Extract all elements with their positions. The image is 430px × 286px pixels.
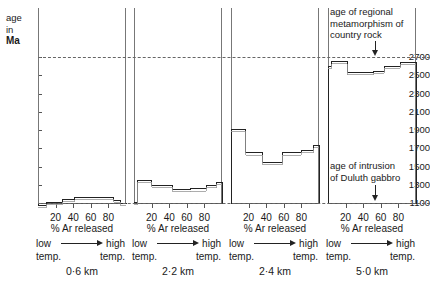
x-tick-label: 80 <box>291 212 311 223</box>
panel-2-2km: 20406080 <box>134 8 222 204</box>
panel-2-4km: 20406080 <box>231 8 319 204</box>
annotation-regional-metamorphism: age of regionalmetamorphism ofcountry ro… <box>330 6 403 41</box>
x-tick-mark <box>73 204 74 208</box>
release-spectrum-steps <box>38 8 126 204</box>
x-tick-mark <box>108 204 109 208</box>
panel-depth-label: 2·2 km <box>128 265 228 278</box>
release-spectrum-steps <box>134 8 222 204</box>
x-tick-mark <box>152 204 153 208</box>
x-axis-label: % Ar released <box>225 223 325 236</box>
panel-depth-label: 0·6 km <box>32 265 132 278</box>
annotation-duluth-gabbro: age of intrusionof Duluth gabbro <box>330 160 400 183</box>
temperature-arrow-shaft <box>61 243 97 244</box>
annotation-metamorphism-arrow-head <box>372 50 378 56</box>
annotation-intrusion-arrow-head <box>372 195 378 201</box>
high-temperature-label: hightemp. <box>293 238 318 263</box>
x-tick-mark <box>301 204 302 208</box>
x-tick-mark <box>187 204 188 208</box>
temperature-arrow-head <box>387 240 393 246</box>
x-axis-label: % Ar released <box>32 223 132 236</box>
argon-release-spectra-figure: age in Ma 110013001500170019002100230025… <box>0 0 430 286</box>
x-tick-label: 80 <box>98 212 118 223</box>
temperature-arrow-head <box>290 240 296 246</box>
release-spectrum-steps <box>231 8 319 204</box>
x-tick-mark <box>249 204 250 208</box>
x-tick-mark <box>363 204 364 208</box>
panel-0-6km: 20406080 <box>38 8 126 204</box>
low-temperature-label: lowtemp. <box>36 238 61 263</box>
high-temperature-label: hightemp. <box>196 238 221 263</box>
temperature-arrow-shaft <box>157 243 193 244</box>
x-tick-mark <box>346 204 347 208</box>
y-axis <box>0 0 38 286</box>
x-tick-mark <box>169 204 170 208</box>
low-temperature-label: lowtemp. <box>326 238 351 263</box>
temperature-arrow-shaft <box>351 243 387 244</box>
x-tick-mark <box>204 204 205 208</box>
x-tick-mark <box>91 204 92 208</box>
x-axis-label: % Ar released <box>128 223 228 236</box>
x-tick-mark <box>381 204 382 208</box>
x-axis-label: % Ar released <box>322 223 422 236</box>
temperature-arrow-head <box>193 240 199 246</box>
temperature-arrow-head <box>97 240 103 246</box>
high-temperature-label: hightemp. <box>390 238 415 263</box>
low-temperature-label: lowtemp. <box>229 238 254 263</box>
x-tick-label: 80 <box>388 212 408 223</box>
high-temperature-label: hightemp. <box>100 238 125 263</box>
panel-depth-label: 5·0 km <box>322 265 422 278</box>
x-tick-mark <box>266 204 267 208</box>
reference-line <box>38 203 430 204</box>
temperature-arrow-shaft <box>254 243 290 244</box>
x-tick-mark <box>398 204 399 208</box>
panel-depth-label: 2·4 km <box>225 265 325 278</box>
low-temperature-label: lowtemp. <box>132 238 157 263</box>
x-tick-mark <box>284 204 285 208</box>
x-tick-label: 80 <box>194 212 214 223</box>
reference-line <box>38 57 430 58</box>
